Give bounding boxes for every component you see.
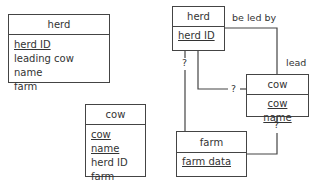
herd-entity-title: herd	[173, 7, 224, 27]
herd-entity: herd herd ID	[172, 6, 225, 51]
herd-table-title: herd	[9, 15, 109, 35]
herd-table-field-key: herd ID	[14, 38, 104, 52]
herd-table: herd herd ID leading cow name farm	[8, 14, 110, 83]
herd-table-field: leading cow name	[14, 52, 104, 80]
herd-table-field: farm	[14, 80, 104, 94]
cow-table-field: farm	[91, 170, 140, 184]
cow-entity: cow cow name	[246, 74, 309, 117]
cow-table-field-key: cow name	[91, 128, 140, 156]
be-led-by-label: be led by	[232, 12, 276, 23]
farm-entity-title: farm	[177, 132, 246, 153]
cow-table: cow cow name herd ID farm	[85, 104, 146, 177]
cow-entity-title: cow	[247, 75, 308, 95]
herd-entity-key: herd ID	[178, 29, 219, 43]
farm-entity: farm farm data	[176, 131, 247, 177]
cow-table-title: cow	[86, 105, 145, 125]
lead-label: lead	[286, 57, 306, 68]
farm-entity-key: farm data	[182, 155, 241, 169]
cow-table-field: herd ID	[91, 156, 140, 170]
herd-cow-cardinality: ?	[231, 83, 236, 94]
cow-farm-cardinality: ?	[274, 119, 279, 130]
herd-farm-cardinality: ?	[182, 57, 187, 68]
